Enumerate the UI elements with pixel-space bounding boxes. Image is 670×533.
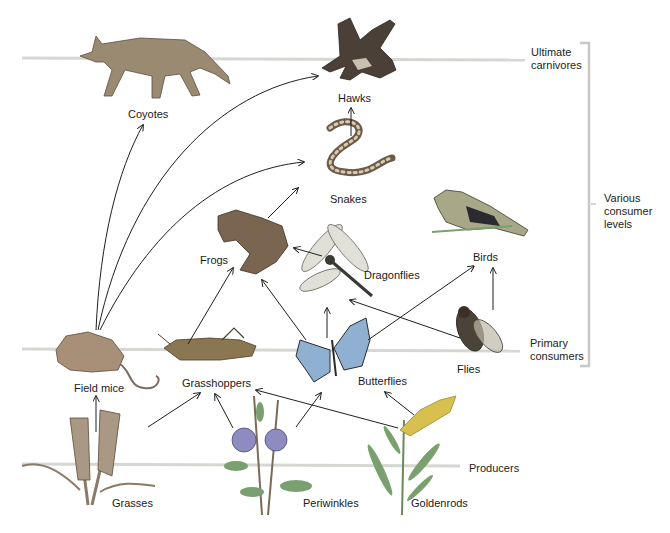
coyote-illustration <box>80 36 230 98</box>
level-label-line: Various <box>604 192 652 205</box>
label-goldenrods: Goldenrods <box>411 497 468 510</box>
level-label-line: Ultimate <box>531 46 582 59</box>
label-field-mice: Field mice <box>74 382 124 395</box>
level-label-line: consumer <box>604 205 652 218</box>
butterfly-illustration <box>296 318 370 382</box>
label-grasses: Grasses <box>112 497 153 510</box>
mouse-illustration <box>56 332 159 388</box>
frog-illustration <box>218 210 288 274</box>
label-snakes: Snakes <box>330 193 367 206</box>
bird-illustration <box>432 190 528 236</box>
grasses-illustration <box>22 410 155 505</box>
label-grasshoppers: Grasshoppers <box>182 377 251 390</box>
level-label-ultimate-carnivores: Ultimate carnivores <box>531 46 582 72</box>
level-label-various-consumer-levels: Various consumer levels <box>604 192 652 231</box>
arrow-mice-to-coyotes <box>96 125 143 330</box>
snake-illustration <box>330 122 392 173</box>
label-birds: Birds <box>473 251 498 264</box>
label-butterflies: Butterflies <box>358 375 407 388</box>
consumer-levels-bracket <box>580 43 589 366</box>
grasshopper-illustration <box>158 328 256 360</box>
label-frogs: Frogs <box>200 254 228 267</box>
periwinkles-illustration <box>224 396 312 515</box>
level-label-line: Primary <box>530 337 584 350</box>
level-label-primary-consumers: Primary consumers <box>530 337 584 363</box>
label-periwinkles: Periwinkles <box>303 497 359 510</box>
arrow-grasshoppers-to-frogs <box>188 268 233 344</box>
arrow-butterflies-to-frogs <box>262 280 306 340</box>
arrow-periwinkles-to-butterflies <box>296 393 321 427</box>
label-coyotes: Coyotes <box>128 108 168 121</box>
dragonfly-illustration <box>297 220 374 296</box>
arrow-periwinkles-to-grasshoppers <box>215 394 233 428</box>
arrow-goldenrods-to-butterflies <box>385 392 414 415</box>
level-label-line: Producers <box>469 462 519 475</box>
arrow-frogs-to-snakes <box>268 188 298 218</box>
feeding-arrows <box>96 76 493 432</box>
hawk-illustration <box>322 18 396 80</box>
level-label-line: carnivores <box>531 59 582 72</box>
label-hawks: Hawks <box>338 92 371 105</box>
food-web-diagram <box>0 0 670 533</box>
level-label-line: levels <box>604 218 652 231</box>
label-dragonflies: Dragonflies <box>364 269 420 282</box>
label-flies: Flies <box>457 363 480 376</box>
level-label-line: consumers <box>530 350 584 363</box>
level-label-producers: Producers <box>469 462 519 475</box>
arrow-grasses-to-grasshoppers <box>148 393 200 427</box>
